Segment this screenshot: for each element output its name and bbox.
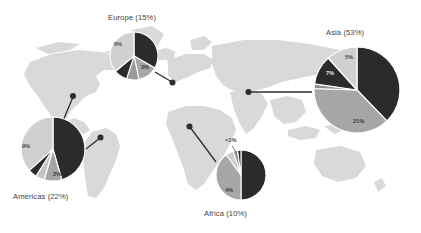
slice-label-americas-2: 2% bbox=[53, 171, 61, 177]
pie-title-africa: Africa (10%) bbox=[204, 209, 247, 218]
world-map-pie-figure: Europe (15%) 6% 3% Asia (53%) bbox=[0, 0, 421, 233]
slice-label-africa-lt1: <1% bbox=[225, 137, 236, 143]
slice-label-asia-21: 21% bbox=[353, 118, 364, 124]
pie-chart-americas: 9% 2% Americas (22%) bbox=[13, 114, 97, 208]
slice-africa-dark-large bbox=[241, 150, 266, 200]
slice-label-africa-1: 1% bbox=[229, 157, 237, 163]
slice-label-asia-7: 7% bbox=[326, 70, 334, 76]
slice-label-europe-6: 6% bbox=[114, 41, 122, 47]
pie-chart-europe: Europe (15%) 6% 3% bbox=[103, 14, 167, 84]
slice-label-africa-4: 4% bbox=[225, 187, 233, 193]
pie-slices-europe bbox=[103, 14, 167, 84]
slice-label-asia-5: 5% bbox=[345, 54, 353, 60]
pie-chart-africa: <1% 1% 4% Africa (10%) bbox=[203, 143, 287, 229]
slice-label-europe-3: 3% bbox=[141, 64, 149, 70]
pie-title-americas: Americas (22%) bbox=[13, 192, 68, 201]
pie-chart-asia: Asia (53%) 5% 7% 21% bbox=[303, 28, 413, 138]
slice-label-americas-9: 9% bbox=[22, 143, 30, 149]
